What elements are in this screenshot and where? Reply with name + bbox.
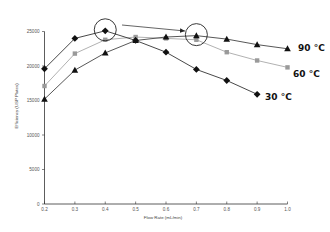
series-label-90c: 90 °C <box>298 43 325 53</box>
x-tick-label: 0.3 <box>72 207 79 212</box>
shift-arrow <box>122 25 185 31</box>
x-axis-title: Flow Rate (mL/min) <box>144 215 183 220</box>
square-marker <box>73 51 77 55</box>
x-tick-label: 1.0 <box>284 207 291 212</box>
efficiency-chart: 0.20.30.40.50.60.70.80.91.00500010000150… <box>0 0 330 232</box>
y-tick-label: 25000 <box>27 29 40 34</box>
triangle-marker <box>102 49 109 55</box>
y-tick-label: 15000 <box>27 98 40 103</box>
x-tick-label: 0.8 <box>224 207 231 212</box>
triangle-marker <box>193 32 200 38</box>
series-60c <box>42 35 289 88</box>
x-tick-label: 0.9 <box>254 207 261 212</box>
square-marker <box>103 38 107 42</box>
square-marker <box>225 50 229 54</box>
series-label-60c: 60 °C <box>293 69 320 79</box>
triangle-marker <box>72 67 79 73</box>
series-label-30c: 30 °C <box>265 92 292 102</box>
diamond-marker <box>223 77 230 84</box>
series-line <box>45 37 288 86</box>
x-tick-label: 0.5 <box>132 207 139 212</box>
y-tick-label: 20000 <box>27 64 40 69</box>
series-90c <box>41 32 291 101</box>
y-tick-label: 10000 <box>27 133 40 138</box>
y-tick-label: 0 <box>37 202 40 207</box>
square-marker <box>255 58 259 62</box>
diamond-marker <box>254 91 261 98</box>
diamond-marker <box>193 66 200 73</box>
x-tick-label: 0.7 <box>193 207 200 212</box>
y-tick-label: 5000 <box>29 167 40 172</box>
square-marker <box>285 65 289 69</box>
diamond-marker <box>163 49 170 56</box>
annotations-layer <box>94 19 207 46</box>
y-axis-title: Efficiency (USP Plates) <box>14 83 19 129</box>
x-tick-label: 0.2 <box>41 207 48 212</box>
axes: 0.20.30.40.50.60.70.80.91.00500010000150… <box>27 29 291 212</box>
diamond-marker <box>102 27 109 34</box>
x-tick-label: 0.4 <box>102 207 109 212</box>
square-marker <box>42 84 46 88</box>
x-tick-label: 0.6 <box>163 207 170 212</box>
series-line <box>45 36 288 99</box>
series-layer <box>41 27 291 101</box>
